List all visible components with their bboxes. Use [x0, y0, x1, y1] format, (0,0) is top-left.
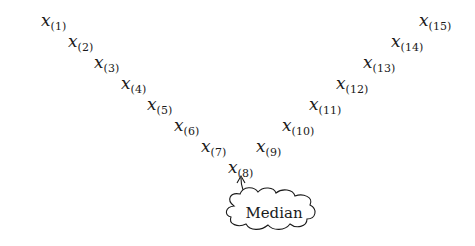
variable: x: [147, 94, 157, 114]
order-statistic-node: x(3): [94, 52, 119, 72]
subscript: (6): [184, 125, 200, 138]
subscript: (10): [292, 125, 315, 138]
subscript: (15): [429, 20, 452, 33]
order-statistic-node: x(12): [336, 73, 368, 93]
order-statistic-node: x(15): [419, 10, 451, 30]
subscript: (1): [51, 20, 67, 33]
order-statistic-node: x(5): [147, 94, 172, 114]
variable: x: [228, 157, 238, 177]
variable: x: [121, 73, 131, 93]
subscript: (5): [157, 104, 173, 117]
order-statistic-node: x(10): [282, 115, 314, 135]
order-statistic-node: x(1): [41, 10, 66, 30]
order-statistic-node: x(8): [228, 157, 253, 177]
order-statistic-node: x(14): [391, 31, 423, 51]
variable: x: [363, 52, 373, 72]
variable: x: [174, 115, 184, 135]
subscript: (14): [401, 41, 424, 54]
subscript: (8): [238, 167, 254, 180]
variable: x: [201, 136, 211, 156]
variable: x: [336, 73, 346, 93]
subscript: (11): [319, 104, 342, 117]
subscript: (7): [211, 146, 227, 159]
order-statistic-node: x(11): [309, 94, 341, 114]
subscript: (13): [373, 62, 396, 75]
median-label: Median: [232, 204, 316, 222]
variable: x: [309, 94, 319, 114]
variable: x: [256, 136, 266, 156]
subscript: (9): [266, 146, 282, 159]
variable: x: [68, 31, 78, 51]
variable: x: [419, 10, 429, 30]
subscript: (4): [131, 83, 147, 96]
order-statistic-node: x(4): [121, 73, 146, 93]
variable: x: [391, 31, 401, 51]
order-statistic-node: x(9): [256, 136, 281, 156]
variable: x: [282, 115, 292, 135]
subscript: (12): [346, 83, 369, 96]
subscript: (3): [104, 62, 120, 75]
order-statistic-node: x(7): [201, 136, 226, 156]
order-statistic-node: x(13): [363, 52, 395, 72]
variable: x: [41, 10, 51, 30]
order-statistic-node: x(6): [174, 115, 199, 135]
variable: x: [94, 52, 104, 72]
subscript: (2): [78, 41, 94, 54]
order-statistic-node: x(2): [68, 31, 93, 51]
